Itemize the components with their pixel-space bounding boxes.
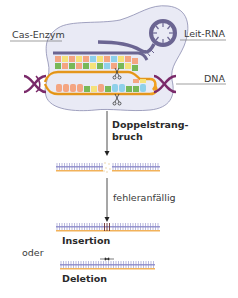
guide-rna-label: Leit-RNA — [184, 29, 225, 39]
cas-enzyme-label: Cas-Enzym — [12, 30, 65, 40]
double-strand-break-label-2: bruch — [112, 132, 143, 142]
insertion-dna-strand — [56, 223, 160, 232]
deletion-dna-strand — [60, 258, 155, 270]
dna-label: DNA — [204, 74, 225, 84]
dna-helix-left — [24, 76, 46, 92]
arrow-down-icon — [105, 178, 110, 222]
insertion-label: Insertion — [62, 236, 110, 246]
double-strand-break-label-1: Doppelstrang- — [112, 120, 189, 130]
error-prone-label: fehleranfällig — [113, 193, 176, 203]
broken-dna-strand — [56, 162, 160, 173]
deletion-arrows-icon — [100, 258, 114, 260]
deletion-label: Deletion — [62, 274, 107, 284]
arrow-down-icon — [105, 111, 110, 156]
or-label: oder — [22, 248, 44, 258]
